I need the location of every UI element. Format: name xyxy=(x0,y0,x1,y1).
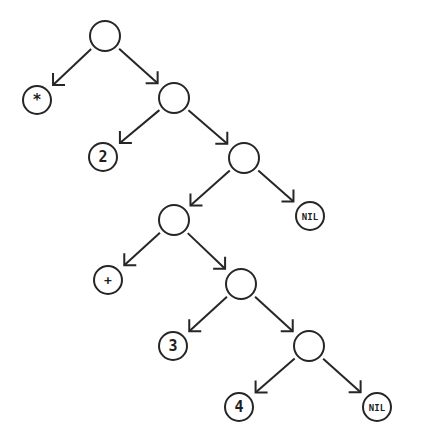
atom-node: + xyxy=(94,266,122,294)
edge-arrow xyxy=(119,49,158,84)
edge-line xyxy=(188,233,225,269)
edge-line xyxy=(188,110,227,143)
atom-node: 3 xyxy=(159,332,187,360)
atom-node: 2 xyxy=(89,143,117,171)
nil-node: NIL xyxy=(296,202,324,230)
cons-cell-node xyxy=(226,269,256,299)
node-label: NIL xyxy=(369,403,386,413)
cons-tree-diagram: *2NIL+34NIL xyxy=(0,0,421,446)
node-circle xyxy=(159,205,189,235)
edge-arrow xyxy=(120,110,159,143)
cons-cell-node xyxy=(90,21,120,51)
edge-arrow xyxy=(323,359,360,393)
edge-arrow xyxy=(255,297,293,331)
edge-arrow xyxy=(189,297,227,331)
edge-arrow xyxy=(188,110,227,143)
edge-line xyxy=(190,171,229,206)
node-label: 2 xyxy=(98,148,107,166)
node-label: 3 xyxy=(168,337,177,355)
edge-line xyxy=(53,49,91,85)
nodes-layer: *2NIL+34NIL xyxy=(23,21,391,421)
edge-line xyxy=(120,110,159,143)
edge-arrow xyxy=(53,49,91,85)
edge-line xyxy=(189,297,227,331)
edge-arrow xyxy=(258,171,293,202)
edge-line xyxy=(258,171,293,202)
node-label: NIL xyxy=(302,212,319,222)
cons-cell-node xyxy=(294,331,324,361)
edge-arrow xyxy=(124,233,160,265)
cons-cell-node xyxy=(229,143,259,173)
node-circle xyxy=(229,143,259,173)
edge-line xyxy=(256,358,295,392)
edge-line xyxy=(255,297,293,331)
node-circle xyxy=(226,269,256,299)
node-label: + xyxy=(104,273,112,288)
atom-node: * xyxy=(23,86,51,114)
node-circle xyxy=(294,331,324,361)
atom-node: 4 xyxy=(225,393,253,421)
edge-line xyxy=(119,49,158,84)
node-label: * xyxy=(32,91,41,109)
edge-arrow xyxy=(190,171,229,206)
edge-line xyxy=(323,359,360,393)
cons-cell-node xyxy=(159,205,189,235)
cons-cell-node xyxy=(159,83,189,113)
edge-arrow xyxy=(256,358,295,392)
edge-arrow xyxy=(188,233,225,269)
edge-line xyxy=(124,233,160,265)
node-circle xyxy=(159,83,189,113)
node-circle xyxy=(90,21,120,51)
node-label: 4 xyxy=(234,398,243,416)
nil-node: NIL xyxy=(363,393,391,421)
